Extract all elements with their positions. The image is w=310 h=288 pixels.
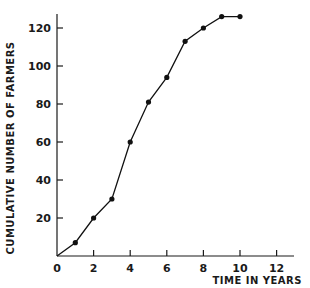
y-tick-label: 120 (28, 22, 51, 35)
x-tick-label: 2 (90, 262, 98, 275)
y-tick-label: 20 (36, 212, 52, 225)
y-axis-label: CUMULATIVE NUMBER OF FARMERS (5, 41, 16, 254)
chart: 024681012 20406080100120 TIME IN YEARS C… (0, 0, 310, 288)
x-tick-label: 4 (126, 262, 134, 275)
x-axis-label: TIME IN YEARS (212, 275, 302, 286)
y-ticks: 20406080100120 (28, 22, 63, 225)
data-point (128, 139, 133, 144)
data-point (164, 75, 169, 80)
data-point (219, 14, 224, 19)
x-ticks: 024681012 (53, 250, 284, 275)
series-line (57, 17, 240, 256)
y-tick-label: 60 (36, 136, 52, 149)
x-tick-label: 12 (269, 262, 284, 275)
x-tick-label: 10 (232, 262, 248, 275)
data-point (146, 100, 151, 105)
y-tick-label: 100 (28, 60, 51, 73)
x-tick-label: 0 (53, 262, 61, 275)
x-tick-label: 6 (163, 262, 171, 275)
y-tick-label: 40 (36, 174, 52, 187)
x-tick-label: 8 (200, 262, 208, 275)
series (57, 14, 243, 256)
data-point (91, 215, 96, 220)
data-point (109, 196, 114, 201)
y-tick-label: 80 (36, 98, 52, 111)
data-point (237, 14, 242, 19)
data-point (73, 240, 78, 245)
data-point (183, 39, 188, 44)
data-point (201, 25, 206, 30)
